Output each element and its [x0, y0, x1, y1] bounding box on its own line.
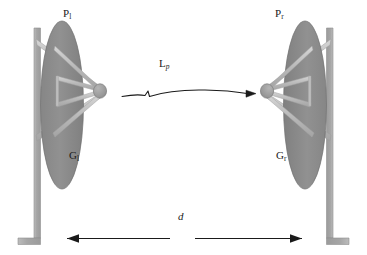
right-strut-rim-brace: [308, 76, 311, 106]
left-strut-rim-brace: [56, 76, 59, 106]
label-distance: d: [178, 211, 184, 222]
left-feed-horn: [93, 84, 106, 98]
distance-left-arrowhead: [67, 234, 79, 243]
label-right-power: Pr: [275, 8, 284, 19]
left-mast-foot: [18, 238, 41, 245]
right-antenna-assembly: [260, 21, 349, 245]
label-left-power: Pl: [63, 8, 71, 19]
label-path-loss: Lp: [159, 58, 169, 69]
distance-right-arrowhead: [290, 234, 302, 243]
right-mast-foot: [327, 238, 350, 245]
label-left-gain: Gl: [69, 150, 79, 161]
distance-dimension: [67, 234, 302, 243]
figure-canvas: Pl Pr Gl Gr Lp d: [0, 0, 367, 255]
label-right-gain: Gr: [276, 150, 286, 161]
signal-arrowhead: [246, 90, 256, 97]
signal-wave-line: [122, 90, 247, 97]
propagation-path-arrow: [122, 90, 256, 97]
right-feed-horn: [260, 84, 273, 98]
left-antenna-assembly: [18, 21, 107, 245]
